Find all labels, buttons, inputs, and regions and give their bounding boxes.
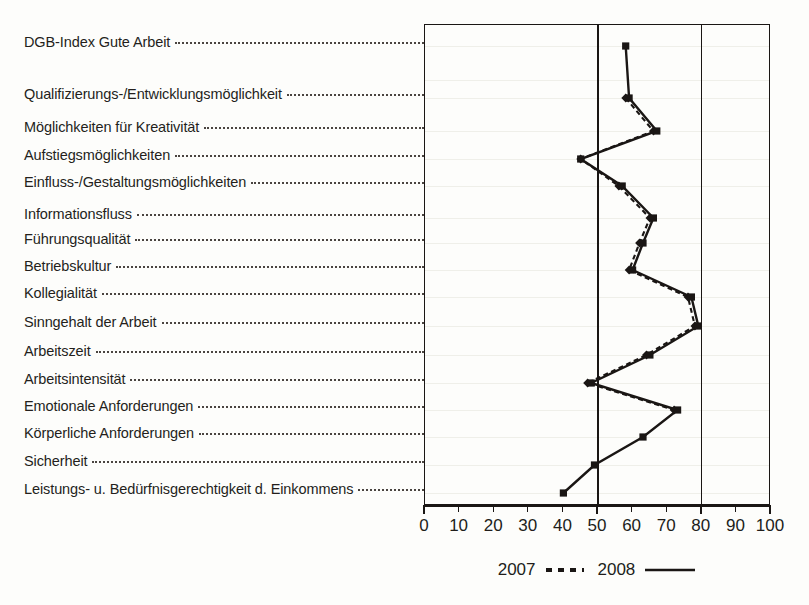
category-label-text: Sicherheit <box>24 453 87 469</box>
leader-dots <box>116 266 424 268</box>
category-label-text: Möglichkeiten für Kreativität <box>24 119 199 135</box>
leader-dots <box>96 351 424 353</box>
category-label-row: Arbeitszeit <box>24 343 424 361</box>
chart-figure: DGB-Index Gute ArbeitQualifizierungs-/En… <box>0 0 809 605</box>
data-point-marker <box>695 322 702 329</box>
data-point-marker <box>688 293 695 300</box>
category-label-row: Sinngehalt der Arbeit <box>24 314 424 332</box>
x-tick-0 <box>423 505 424 514</box>
plot-area <box>424 24 770 505</box>
leader-dots <box>102 293 424 295</box>
category-label-row: Führungsqualität <box>24 231 424 249</box>
category-label-row: Betriebskultur <box>24 258 424 276</box>
x-tick-50 <box>596 505 597 514</box>
x-tick-100 <box>769 505 770 514</box>
category-label-row: Qualifizierungs-/Entwicklungsmöglichkeit <box>24 86 424 104</box>
legend-swatch-solid <box>644 564 696 576</box>
category-label-row: Einfluss-/Gestaltungsmöglichkeiten <box>24 174 424 192</box>
data-point-marker <box>653 127 660 134</box>
leader-dots <box>130 379 424 381</box>
x-tick-label-0: 0 <box>419 516 428 536</box>
x-tick-label-20: 20 <box>484 516 503 536</box>
category-label-row: Emotionale Anforderungen <box>24 398 424 416</box>
data-point-marker <box>629 266 636 273</box>
data-point-marker <box>577 155 584 162</box>
leader-dots <box>251 182 424 184</box>
category-label-text: Informationsfluss <box>24 206 132 222</box>
category-label-text: Emotionale Anforderungen <box>24 398 193 414</box>
category-label-row: DGB-Index Gute Arbeit <box>24 34 424 52</box>
x-tick-label-70: 70 <box>657 516 676 536</box>
category-label-text: Qualifizierungs-/Entwicklungsmöglichkeit <box>24 86 282 102</box>
category-label-column: DGB-Index Gute ArbeitQualifizierungs-/En… <box>0 0 424 505</box>
x-tick-label-40: 40 <box>553 516 572 536</box>
data-point-marker <box>626 94 633 101</box>
legend-swatch-dashed <box>545 564 585 576</box>
legend-item-2007: 2007 <box>498 560 585 580</box>
x-tick-90 <box>735 505 736 512</box>
x-tick-label-80: 80 <box>691 516 710 536</box>
x-tick-label-50: 50 <box>588 516 607 536</box>
legend-item-2008: 2008 <box>598 560 697 580</box>
category-label-text: Betriebskultur <box>24 258 111 274</box>
category-label-text: Arbeitszeit <box>24 343 91 359</box>
x-tick-10 <box>458 505 459 512</box>
category-label-row: Aufstiegsmöglichkeiten <box>24 147 424 165</box>
category-label-text: DGB-Index Gute Arbeit <box>24 34 170 50</box>
data-point-marker <box>560 489 567 496</box>
x-tick-label-100: 100 <box>756 516 784 536</box>
data-point-marker <box>622 42 629 49</box>
x-tick-label-90: 90 <box>726 516 745 536</box>
category-label-text: Einfluss-/Gestaltungsmöglichkeiten <box>24 174 246 190</box>
data-point-marker <box>588 379 595 386</box>
x-tick-40 <box>562 505 563 512</box>
leader-dots <box>199 433 424 435</box>
data-point-marker <box>639 433 646 440</box>
data-point-marker <box>674 406 681 413</box>
leader-dots <box>175 42 424 44</box>
leader-dots <box>92 461 424 463</box>
category-label-text: Aufstiegsmöglichkeiten <box>24 147 170 163</box>
category-label-text: Leistungs- u. Bedürfnisgerechtigkeit d. … <box>24 481 353 497</box>
category-label-text: Arbeitsintensität <box>24 371 125 387</box>
category-label-row: Möglichkeiten für Kreativität <box>24 119 424 137</box>
x-tick-label-60: 60 <box>622 516 641 536</box>
leader-dots <box>137 214 424 216</box>
category-label-row: Arbeitsintensität <box>24 371 424 389</box>
legend-label: 2008 <box>598 560 636 580</box>
category-label-row: Informationsfluss <box>24 206 424 224</box>
category-label-text: Sinngehalt der Arbeit <box>24 314 157 330</box>
data-point-marker <box>650 214 657 221</box>
category-label-text: Kollegialität <box>24 285 97 301</box>
leader-dots <box>358 489 424 491</box>
leader-dots <box>135 239 424 241</box>
x-tick-80 <box>700 505 701 514</box>
x-tick-30 <box>527 505 528 512</box>
category-label-text: Führungsqualität <box>24 231 130 247</box>
x-tick-70 <box>666 505 667 512</box>
x-tick-20 <box>493 505 494 512</box>
category-label-text: Körperliche Anforderungen <box>24 425 194 441</box>
chart-legend: 20072008 <box>424 555 770 585</box>
category-label-row: Körperliche Anforderungen <box>24 425 424 443</box>
leader-dots <box>287 94 424 96</box>
data-point-marker <box>646 351 653 358</box>
series-layer <box>425 25 771 506</box>
category-label-row: Leistungs- u. Bedürfnisgerechtigkeit d. … <box>24 481 424 499</box>
x-tick-label-10: 10 <box>449 516 468 536</box>
category-label-row: Kollegialität <box>24 285 424 303</box>
data-point-marker <box>639 239 646 246</box>
category-label-row: Sicherheit <box>24 453 424 471</box>
leader-dots <box>204 127 424 129</box>
plot-inner <box>425 25 769 504</box>
leader-dots <box>175 155 424 157</box>
data-point-marker <box>591 461 598 468</box>
x-tick-60 <box>631 505 632 512</box>
data-point-marker <box>619 182 626 189</box>
leader-dots <box>198 406 424 408</box>
x-axis: 0102030405060708090100 <box>424 505 770 506</box>
leader-dots <box>162 322 424 324</box>
x-tick-label-30: 30 <box>518 516 537 536</box>
legend-label: 2007 <box>498 560 536 580</box>
